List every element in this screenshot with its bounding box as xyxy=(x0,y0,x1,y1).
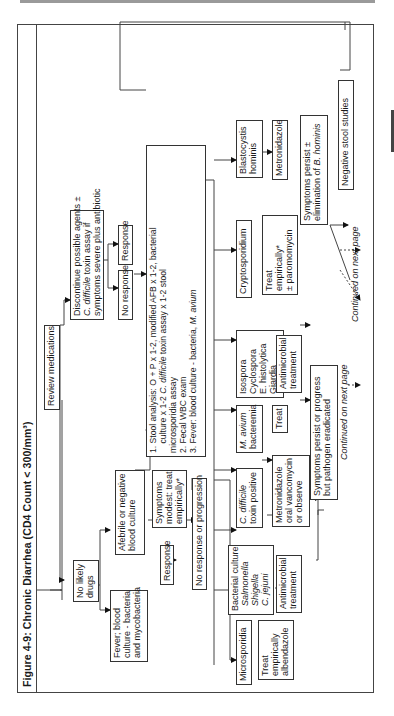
node-negative-stool-studies: Negative stool studies xyxy=(338,80,354,190)
node-no-likely-drugs: No likelydrugs xyxy=(73,560,99,602)
node-symptoms-persist-bhominis: Symptoms persist ±elimination of B. homi… xyxy=(300,115,328,225)
node-no-response-progression: No response or progression xyxy=(192,478,207,590)
node-no-response-top: No response xyxy=(118,270,133,320)
node-response-left: Response xyxy=(160,545,174,585)
node-discontinue-agents: Discontinue possible agents ±C. difficil… xyxy=(70,210,104,320)
node-antimicrobial-treatment-1: Antimicrobialtreatment xyxy=(276,555,302,613)
node-review-medications: Review medications xyxy=(44,325,60,410)
node-c-difficile: C. difficiletoxin positive xyxy=(236,468,263,528)
continued-note-1: Continued on next page xyxy=(339,364,349,460)
node-treat-albendazole: Treatempiricallyalbendazole xyxy=(258,620,294,680)
node-symptoms-modest: Symptomsmodest: treatempirically* xyxy=(152,470,187,528)
node-microsporidia: Microsporidia xyxy=(236,620,252,685)
node-treat-paromomycin: Treatempirically*± paromomycin xyxy=(262,215,298,295)
continued-note-2: Continued on next page xyxy=(350,226,360,322)
node-fever-blood-culture: Fever; bloodculture - bacteriaand mycoba… xyxy=(110,590,148,662)
node-blastocystis: Blastocystishominis xyxy=(236,120,263,178)
node-bacterial-culture: Bacterial culture Salmonella Shigella C.… xyxy=(228,545,274,615)
node-stool-workup: 1. Stool analysis: O + P x 1-2, modified… xyxy=(146,145,206,457)
node-afebrile: Afebrile or negativeblood culture xyxy=(115,470,145,555)
node-metronidazole-vanco: Metronidazoleoral vancomycinor observe xyxy=(272,455,310,527)
node-cryptosporidium: Cryptosporidium xyxy=(236,220,252,298)
node-metronidazole: Metronidazole xyxy=(272,120,288,180)
node-m-avium: M. aviumbacteremia xyxy=(236,405,263,453)
node-symptoms-persist-pathogen: Symptoms persist or progressbut pathogen… xyxy=(310,365,338,500)
node-response-top: Response xyxy=(118,225,133,265)
node-treat: Treat xyxy=(272,405,288,433)
node-antimicrobial-treatment-2: Antimicrobialtreatment xyxy=(276,335,302,393)
